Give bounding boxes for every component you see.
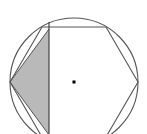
geometry-figure-container	[0, 0, 147, 134]
center-dot-marker	[73, 81, 76, 84]
shaded-region-polygon	[10, 29, 49, 134]
geometry-diagram	[0, 0, 147, 134]
